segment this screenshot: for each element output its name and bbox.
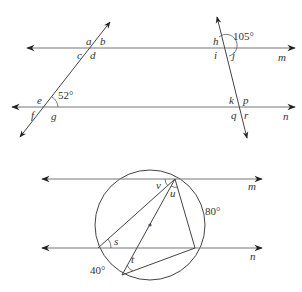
label-u: u [170,187,176,199]
label-s: s [114,235,118,247]
label-q: q [231,109,237,121]
label-k: k [229,94,235,106]
label-g: g [51,110,57,122]
label-n-bottom: n [250,250,256,262]
geometry-figure: a b c d e f g 52° h i j 105° m n k p q r [0,0,302,292]
label-h: h [213,35,219,47]
label-n-top: n [283,110,289,122]
label-p: p [242,94,249,106]
label-m-bottom: m [248,180,256,192]
arc-80-label: 80° [205,205,220,217]
bottom-diagram: v u s t 80° 40° m n [42,170,262,280]
angle-105-label: 105° [233,30,254,42]
label-m-top: m [278,51,286,63]
angle-t-arc [127,265,133,271]
arc-40-label: 40° [90,264,105,276]
label-f: f [31,109,36,121]
label-a: a [86,35,92,47]
label-d: d [90,49,96,61]
label-e: e [37,94,42,106]
label-v: v [156,179,161,191]
angle-v-arc [165,179,168,186]
top-diagram: a b c d e f g 52° h i j 105° m n k p q r [12,17,295,138]
chord-diameter [122,179,175,275]
label-i: i [214,49,217,61]
chord-top-left [98,179,175,248]
angle-s-arc [108,239,111,248]
label-c: c [77,49,82,61]
label-b: b [100,35,106,47]
label-r: r [244,109,249,121]
label-t: t [131,253,135,265]
angle-52-label: 52° [58,89,73,101]
